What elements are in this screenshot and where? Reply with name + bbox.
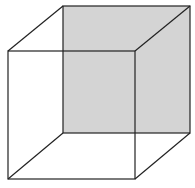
cube-diagram [0, 0, 195, 188]
edge-top-left [8, 6, 63, 51]
edge-bottom-left [8, 133, 63, 179]
back-face [63, 6, 190, 133]
edge-bottom-right [135, 133, 190, 179]
